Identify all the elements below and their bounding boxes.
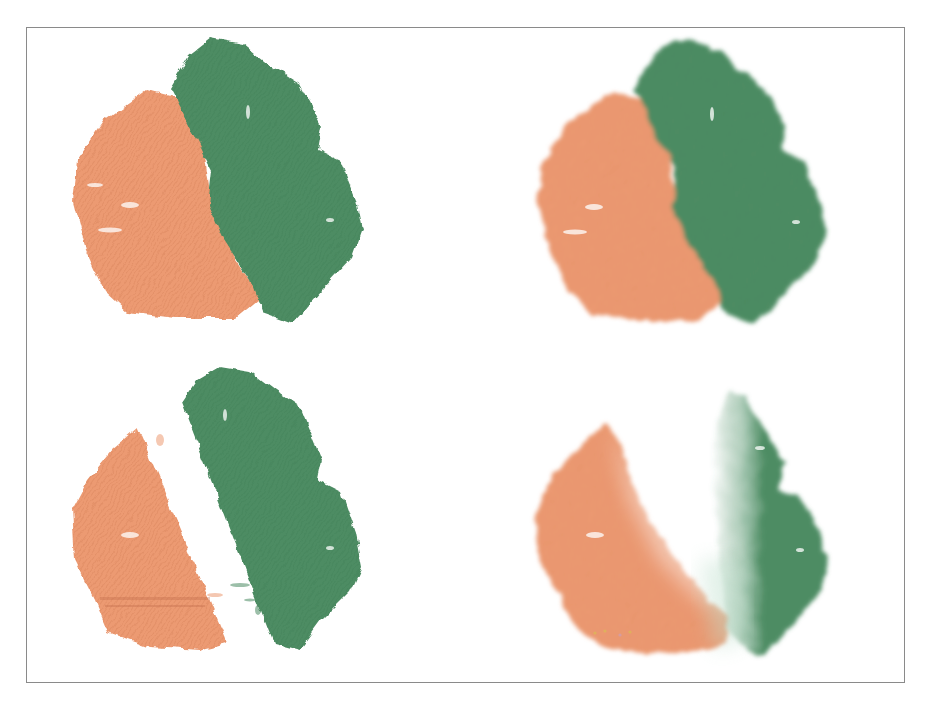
orange-stroke — [72, 428, 227, 650]
panel-top-left — [73, 38, 362, 323]
panel-bottom-left — [72, 367, 362, 650]
panel-top-right — [537, 38, 826, 324]
paint-samples-artwork — [0, 0, 926, 707]
orange-stroke — [535, 423, 728, 654]
panel-bottom-right — [535, 390, 828, 654]
